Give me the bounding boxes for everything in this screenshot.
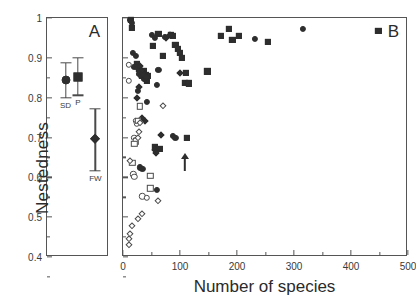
x-tick-mark-minor (379, 252, 380, 255)
data-point-sd (61, 75, 70, 84)
x-tick-mark (350, 250, 351, 255)
data-point-filled-square (236, 33, 242, 39)
data-point-fw (90, 134, 100, 144)
error-bar-cap-sd-upper (60, 62, 71, 63)
data-point-filled-circle (155, 67, 161, 73)
y-tick-mark (123, 256, 128, 257)
y-tick-mark (123, 217, 128, 218)
group-label-sd: SD (60, 101, 71, 110)
x-tick-label: 500 (400, 261, 416, 272)
y-tick-mark-minor (123, 157, 126, 158)
data-point-filled-square (218, 33, 224, 39)
y-tick-label: 1 (36, 13, 47, 24)
x-tick-label: 200 (229, 261, 246, 272)
y-tick-label: 0.4 (28, 252, 47, 263)
y-axis-label: Nestedness (33, 88, 53, 248)
y-tick-mark (123, 97, 128, 98)
y-tick-mark (47, 177, 52, 178)
data-point-filled-square (129, 25, 135, 31)
error-bar-cap-p-upper (73, 57, 84, 58)
data-point-filled-square (226, 26, 232, 32)
y-tick-mark-minor (47, 236, 50, 237)
data-point-open-circle (144, 195, 150, 201)
x-tick-mark (407, 250, 408, 255)
data-point-filled-square (204, 68, 210, 74)
panel-b-plot-area: B Number of species 0100200300400500 (122, 17, 407, 256)
data-point-filled-square (179, 55, 185, 61)
y-tick-mark-minor (123, 197, 126, 198)
y-tick-mark-minor (123, 276, 126, 277)
group-label-p: P (75, 98, 80, 107)
annotation-arrow-stem (183, 158, 185, 171)
panel-a-plot-area: Nestedness A 0.40.50.60.70.80.91 SDPFW (46, 17, 108, 256)
y-tick-mark (47, 17, 52, 18)
y-tick-mark-minor (123, 117, 126, 118)
data-point-open-square (131, 141, 137, 147)
data-point-filled-circle (154, 81, 160, 87)
y-tick-mark (47, 137, 52, 138)
y-tick-mark (47, 217, 52, 218)
y-tick-mark (123, 57, 128, 58)
data-point-filled-circle (172, 134, 178, 140)
data-point-filled-square (375, 28, 381, 34)
data-point-open-square (137, 103, 143, 109)
data-point-filled-circle (132, 53, 138, 59)
x-tick-mark-minor (208, 252, 209, 255)
y-tick-label: 0.8 (28, 92, 47, 103)
x-tick-label: 100 (172, 261, 189, 272)
error-bar-cap-p-lower (73, 95, 84, 96)
panel-b-letter: B (388, 22, 399, 42)
x-axis-label: Number of species (194, 277, 336, 297)
y-tick-mark (123, 137, 128, 138)
group-label-fw: FW (89, 174, 101, 183)
data-point-filled-circle (154, 187, 160, 193)
error-bar-cap-fw-upper (90, 108, 101, 109)
panel-a-letter: A (89, 22, 100, 42)
x-tick-mark (293, 250, 294, 255)
data-point-open-square (147, 173, 153, 179)
y-tick-label: 0.9 (28, 52, 47, 63)
data-point-filled-diamond (157, 132, 164, 139)
data-point-filled-circle (152, 35, 158, 41)
data-point-filled-circle (252, 36, 258, 42)
x-tick-mark-minor (265, 252, 266, 255)
x-tick-mark-minor (151, 252, 152, 255)
x-tick-mark-minor (322, 252, 323, 255)
y-tick-mark-minor (47, 117, 50, 118)
y-tick-mark (47, 256, 52, 257)
data-point-filled-circle (139, 165, 145, 171)
data-point-filled-square (184, 134, 190, 140)
data-point-filled-square (160, 53, 166, 59)
y-tick-mark (47, 57, 52, 58)
data-point-open-circle (125, 78, 131, 84)
data-point-filled-circle (300, 26, 306, 32)
y-tick-label: 0.6 (28, 172, 47, 183)
data-point-open-diamond (155, 198, 162, 205)
data-point-p (74, 72, 83, 81)
data-point-filled-square (265, 39, 271, 45)
x-tick-mark (179, 250, 180, 255)
x-tick-label: 300 (286, 261, 303, 272)
y-tick-mark (47, 97, 52, 98)
data-point-filled-square (229, 37, 235, 43)
error-bar-cap-sd-lower (60, 97, 71, 98)
y-tick-mark (123, 177, 128, 178)
y-tick-mark-minor (47, 157, 50, 158)
data-point-open-diamond (128, 222, 135, 229)
data-point-open-diamond (125, 241, 132, 248)
data-point-open-square (147, 185, 153, 191)
x-tick-label: 400 (343, 261, 360, 272)
data-point-filled-square (150, 43, 156, 49)
y-tick-label: 0.7 (28, 132, 47, 143)
data-point-open-diamond (159, 103, 166, 110)
y-tick-label: 0.5 (28, 212, 47, 223)
y-tick-mark-minor (47, 276, 50, 277)
data-point-open-circle (131, 173, 137, 179)
x-tick-mark (122, 250, 123, 255)
y-tick-mark-minor (47, 77, 50, 78)
y-tick-mark-minor (47, 197, 50, 198)
data-point-filled-diamond (133, 94, 140, 101)
data-point-filled-circle (144, 99, 150, 105)
x-tick-mark (236, 250, 237, 255)
